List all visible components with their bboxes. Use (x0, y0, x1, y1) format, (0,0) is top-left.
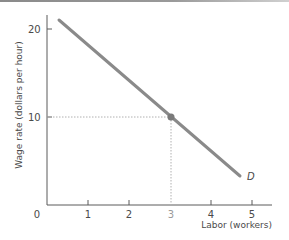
demand-chart: D 20 10 0 1 2 3 4 5 Labor (workers) Wage… (0, 0, 289, 240)
x-tick-label-3: 3 (168, 209, 174, 220)
y-tick-label-10: 10 (28, 112, 41, 123)
x-tick-label-4: 4 (208, 209, 214, 220)
demand-curve (59, 20, 240, 176)
origin-label: 0 (34, 209, 40, 220)
y-tick-label-20: 20 (28, 24, 41, 35)
x-tick-label-2: 2 (126, 209, 132, 220)
curve-label-d: D (247, 171, 255, 182)
x-tick-label-5: 5 (249, 209, 255, 220)
equilibrium-point (168, 114, 175, 121)
x-tick-label-1: 1 (85, 209, 91, 220)
x-axis-label: Labor (workers) (201, 220, 272, 230)
y-axis-label: Wage rate (dollars per hour) (14, 41, 24, 169)
